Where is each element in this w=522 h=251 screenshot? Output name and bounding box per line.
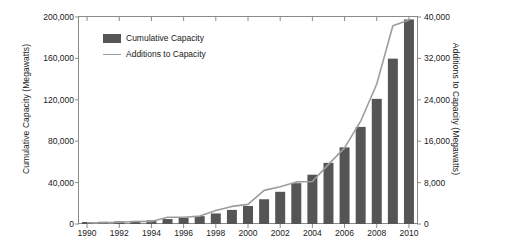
chart-screenshot: Cumulative Capacity (Megawatts) Addition…: [0, 0, 522, 251]
legend-item-additions-to-capacity: Additions to Capacity: [103, 47, 206, 61]
x-tick-label-1990: 1990: [78, 228, 97, 238]
axis-tick-marks: [0, 0, 522, 251]
x-tick-label-1994: 1994: [142, 228, 161, 238]
legend-label-cumulative-capacity: Cumulative Capacity: [126, 33, 204, 43]
x-tick-label-2000: 2000: [239, 228, 258, 238]
x-axis-ticks: 1990199219941996199820002002200420062008…: [78, 228, 418, 242]
chart-legend: Cumulative Capacity Additions to Capacit…: [103, 31, 206, 63]
x-tick-label-1996: 1996: [174, 228, 193, 238]
x-tick-label-1998: 1998: [206, 228, 225, 238]
legend-bar-swatch-icon: [103, 34, 121, 43]
legend-line-swatch-icon: [103, 50, 121, 59]
legend-item-cumulative-capacity: Cumulative Capacity: [103, 31, 206, 45]
x-tick-label-2006: 2006: [335, 228, 354, 238]
x-tick-label-2004: 2004: [303, 228, 322, 238]
x-tick-label-2002: 2002: [271, 228, 290, 238]
x-tick-label-2010: 2010: [399, 228, 418, 238]
x-tick-label-1992: 1992: [110, 228, 129, 238]
legend-label-additions-to-capacity: Additions to Capacity: [126, 49, 206, 59]
x-tick-label-2008: 2008: [367, 228, 386, 238]
